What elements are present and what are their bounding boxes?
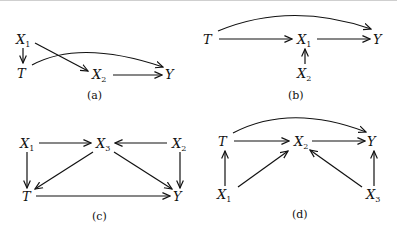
causal-diagrams-figure: X1 T X2 Y (a) T X1 X2 Y (b) X1 X3 X2 T Y…	[0, 0, 397, 231]
diagram-svg: X1 T X2 Y (a) T X1 X2 Y (b) X1 X3 X2 T Y…	[0, 1, 397, 231]
edge-t-y	[32, 52, 163, 67]
node-y: Y	[173, 189, 183, 204]
node-x2: X2	[293, 134, 308, 151]
node-x2: X2	[171, 136, 186, 153]
node-y: Y	[165, 67, 175, 82]
caption-b: (b)	[288, 89, 304, 102]
node-x1: X1	[15, 32, 30, 49]
edge-x3-t	[35, 152, 93, 189]
caption-d: (d)	[292, 208, 308, 221]
node-x3: X3	[365, 187, 380, 204]
panel-c: X1 X3 X2 T Y (c)	[19, 136, 186, 223]
node-t: T	[203, 32, 213, 47]
node-t: T	[22, 189, 32, 204]
node-x3: X3	[95, 136, 110, 153]
node-y: Y	[367, 134, 377, 149]
edge-x1-x2	[238, 151, 288, 187]
node-t: T	[17, 66, 27, 81]
node-y: Y	[373, 32, 383, 47]
panel-d: T X2 Y X1 X3 (d)	[216, 118, 380, 221]
caption-c: (c)	[92, 210, 107, 223]
node-x2: X2	[91, 67, 106, 84]
node-x2: X2	[296, 66, 311, 83]
panel-a: X1 T X2 Y (a)	[15, 32, 175, 102]
edge-t-y	[233, 118, 366, 133]
panel-b: T X1 X2 Y (b)	[203, 15, 383, 102]
edge-t-y	[218, 15, 371, 31]
edge-x3-y	[114, 152, 172, 189]
node-x1: X1	[296, 32, 311, 49]
node-x1: X1	[19, 136, 34, 153]
node-t: T	[218, 134, 228, 149]
caption-a: (a)	[87, 89, 102, 102]
edge-x1-x2	[35, 43, 88, 71]
node-x1: X1	[216, 187, 231, 204]
edge-x3-x2	[310, 150, 362, 187]
